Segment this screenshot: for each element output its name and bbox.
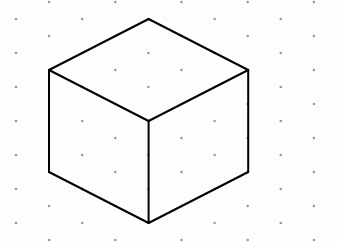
- grid-dot: [81, 222, 84, 225]
- grid-dot: [15, 18, 18, 21]
- grid-dot: [48, 1, 51, 4]
- grid-dot: [15, 188, 18, 191]
- grid-dot: [48, 205, 51, 208]
- grid-dot: [48, 35, 51, 38]
- grid-dot: [213, 18, 216, 21]
- grid-dot: [114, 137, 117, 140]
- grid-dot: [180, 1, 183, 4]
- grid-dot: [180, 137, 183, 140]
- grid-dot: [114, 1, 117, 4]
- grid-dot: [313, 171, 316, 174]
- grid-dot: [280, 52, 283, 55]
- grid-dot: [81, 154, 84, 157]
- grid-dot: [313, 137, 316, 140]
- grid-dot: [15, 222, 18, 225]
- grid-dot: [246, 35, 249, 38]
- grid-dot: [114, 239, 117, 242]
- dot-grid: [15, 1, 316, 242]
- grid-dot: [15, 120, 18, 123]
- grid-dot: [15, 154, 18, 157]
- grid-dot: [48, 239, 51, 242]
- grid-dot: [213, 120, 216, 123]
- cube-edge-upper_right-front_center: [149, 70, 249, 121]
- grid-dot: [280, 154, 283, 157]
- grid-dot: [180, 171, 183, 174]
- grid-dot: [213, 154, 216, 157]
- grid-dot: [180, 239, 183, 242]
- grid-dot: [246, 239, 249, 242]
- grid-dot: [114, 69, 117, 72]
- grid-dot: [15, 86, 18, 89]
- cube-edge-top-upper_right: [149, 19, 249, 70]
- grid-dot: [313, 1, 316, 4]
- grid-dot: [114, 171, 117, 174]
- cube-edge-lower_left-bottom: [49, 172, 149, 223]
- grid-dot: [280, 222, 283, 225]
- grid-dot: [313, 103, 316, 106]
- grid-dot: [213, 222, 216, 225]
- grid-dot: [280, 120, 283, 123]
- grid-dot: [246, 205, 249, 208]
- grid-dot: [15, 52, 18, 55]
- grid-dot: [280, 18, 283, 21]
- cube-edge-upper_left-front_center: [49, 70, 149, 121]
- grid-dot: [280, 86, 283, 89]
- grid-dot: [180, 69, 183, 72]
- cube-edge-top-upper_left: [49, 19, 149, 70]
- grid-dot: [313, 35, 316, 38]
- grid-dot: [147, 86, 150, 89]
- grid-dot: [81, 18, 84, 21]
- grid-dot: [313, 239, 316, 242]
- grid-dot: [246, 1, 249, 4]
- cube-edges: [49, 19, 248, 223]
- grid-dot: [313, 69, 316, 72]
- grid-dot: [280, 188, 283, 191]
- grid-dot: [313, 205, 316, 208]
- grid-dot: [81, 120, 84, 123]
- grid-dot: [147, 52, 150, 55]
- cube-edge-lower_right-bottom: [149, 172, 249, 223]
- isometric-dot-grid-diagram: [0, 0, 337, 242]
